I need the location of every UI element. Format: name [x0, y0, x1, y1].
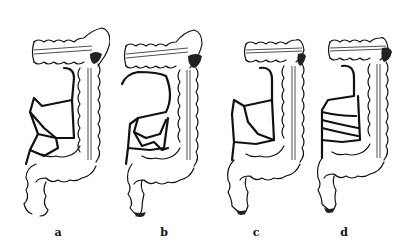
- colon-drawing-a: [0, 0, 110, 230]
- panel-label-b: b: [154, 226, 174, 239]
- panel-c: c: [222, 0, 312, 252]
- panel-b: b: [110, 0, 220, 252]
- panel-a: a: [0, 0, 110, 252]
- colon-drawing-b: [110, 0, 220, 230]
- colon-vascular-diagram: a b: [0, 0, 407, 252]
- panel-d: d: [312, 0, 407, 252]
- panel-label-d: d: [334, 226, 354, 239]
- panel-label-c: c: [246, 226, 266, 239]
- colon-drawing-c: [222, 0, 312, 230]
- colon-drawing-d: [312, 0, 407, 230]
- panel-label-a: a: [48, 226, 68, 239]
